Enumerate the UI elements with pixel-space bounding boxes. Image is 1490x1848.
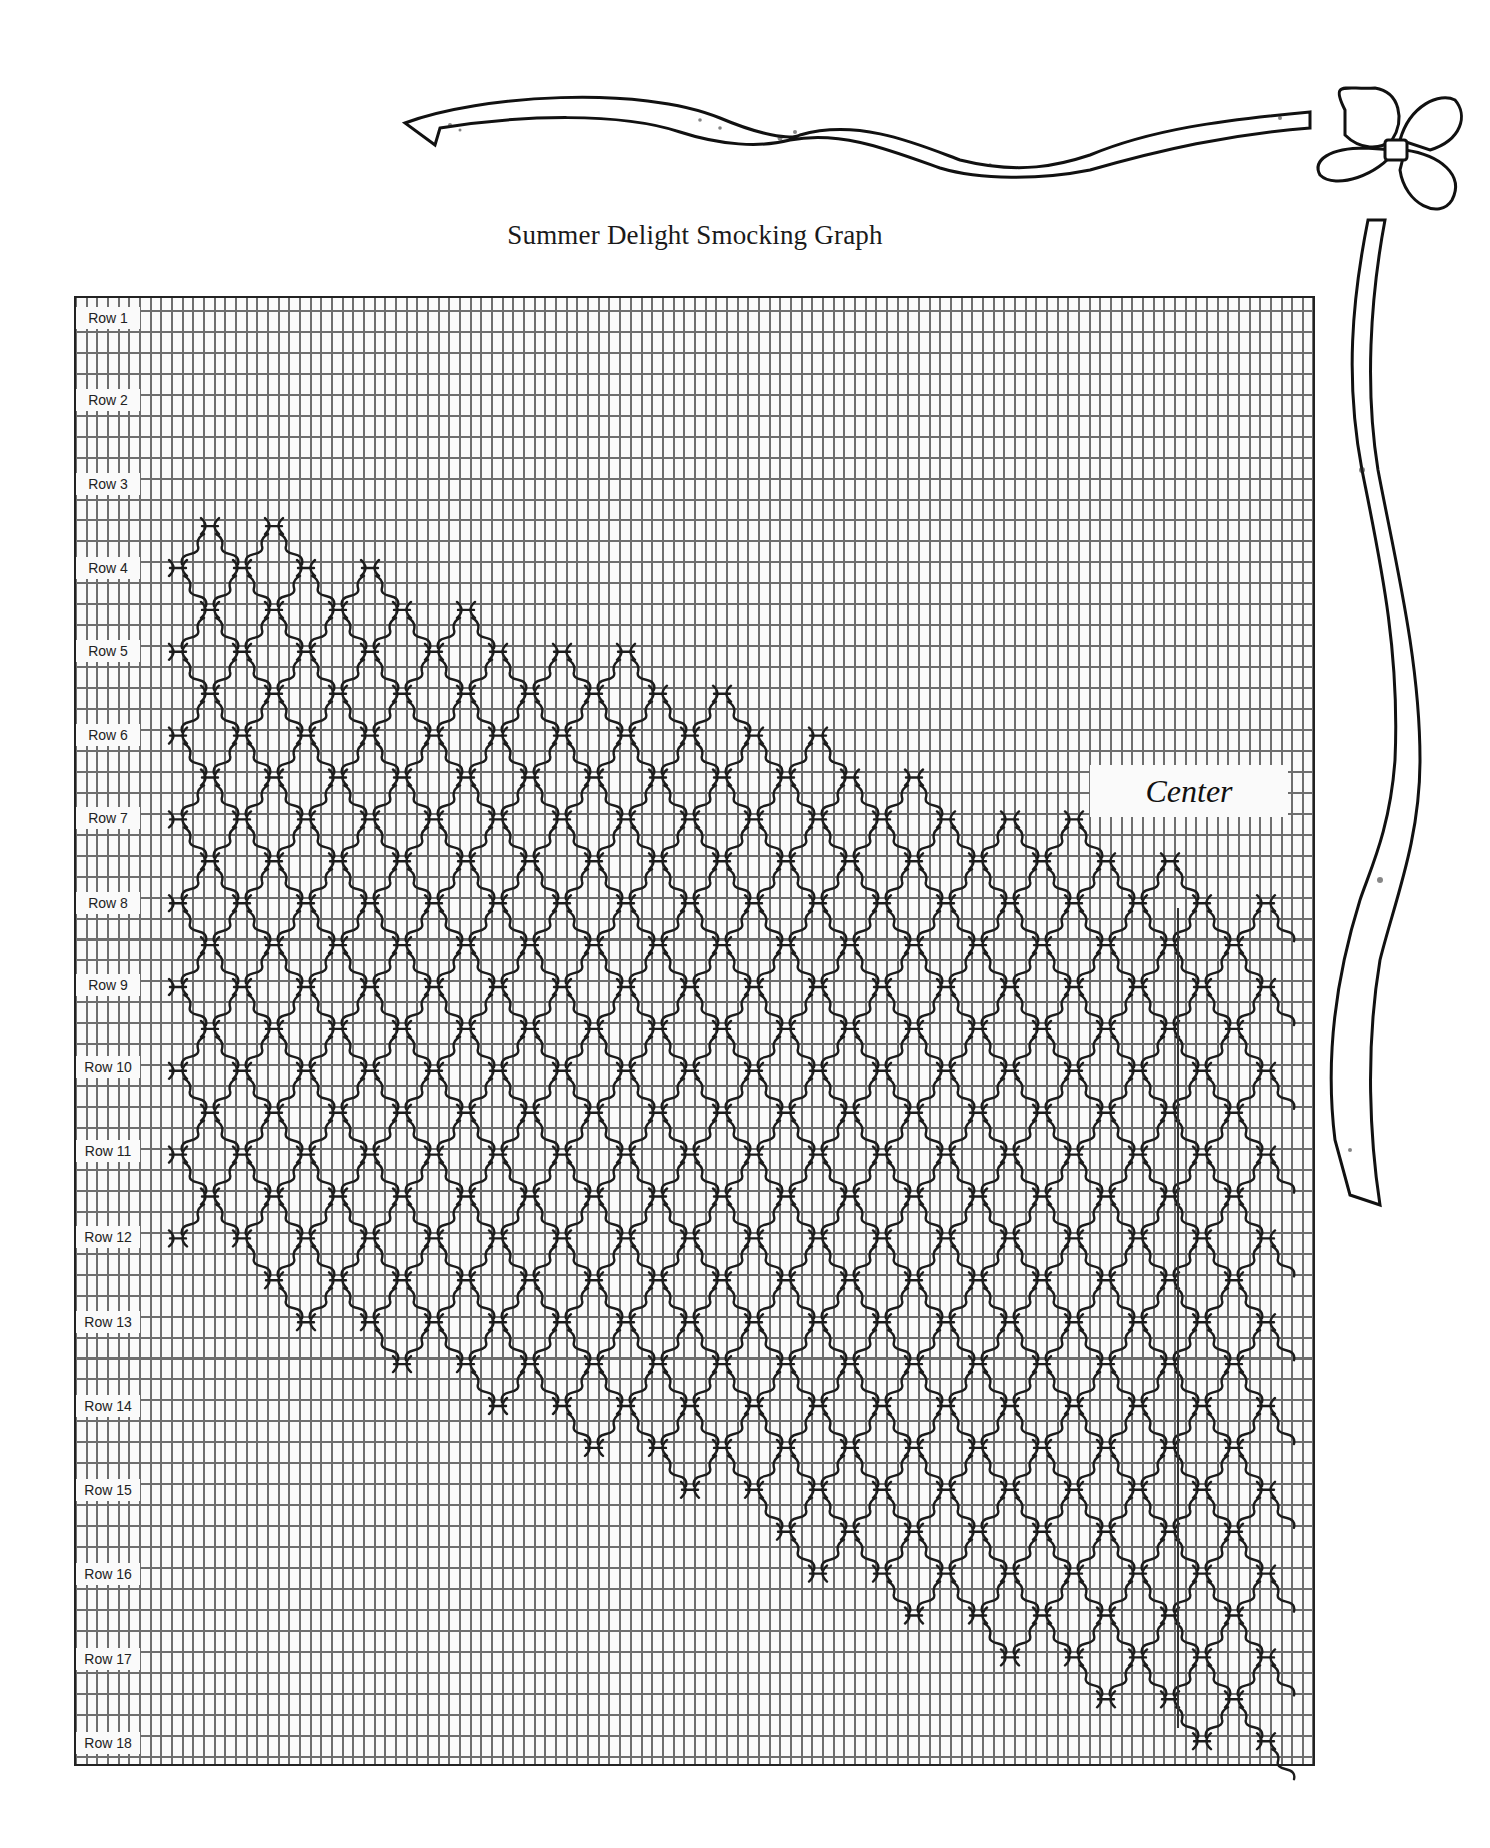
- center-line: [1177, 908, 1179, 1728]
- center-label: Center: [1145, 773, 1232, 810]
- center-label-box: Center: [1090, 765, 1288, 817]
- stitch-pattern: [0, 0, 1490, 1848]
